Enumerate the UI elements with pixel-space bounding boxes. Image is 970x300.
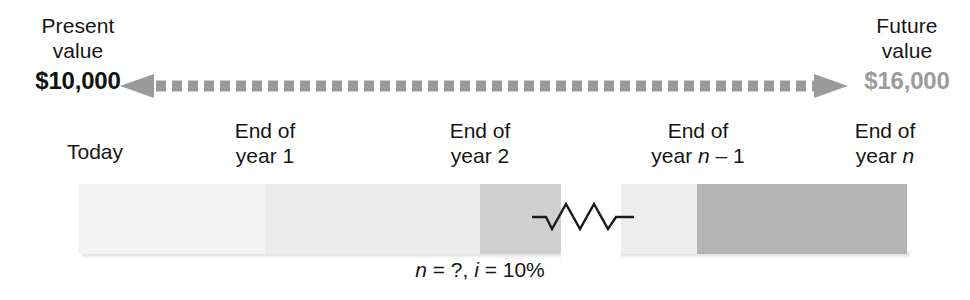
variable-n-italic: n [698, 144, 710, 167]
future-value-caption-line2: value [848, 39, 966, 64]
double-headed-dashed-arrow-icon [120, 68, 860, 104]
year-n-prefix: year [856, 144, 903, 167]
period-label-year-n-minus-1: End of year n – 1 [638, 119, 758, 169]
year-n-minus-1-prefix: year [651, 144, 698, 167]
bar-segment-1 [78, 184, 265, 254]
period-label-year-2: End of year 2 [430, 119, 530, 169]
present-value-caption-line1: Present [18, 14, 138, 39]
period-label-year-2-line2: year 2 [430, 144, 530, 169]
zigzag-break-icon [532, 196, 634, 238]
future-value-caption-line1: Future [848, 14, 966, 39]
formula-annotation: n = ?, i = 10% [330, 258, 630, 282]
period-label-today-line1: Today [67, 140, 123, 163]
period-label-year-1-line1: End of [235, 119, 296, 142]
period-label-today: Today [45, 140, 145, 165]
future-value-amount: $16,000 [848, 67, 966, 95]
year-n-minus-1-suffix: – 1 [710, 144, 745, 167]
formula-variable-n: n [415, 258, 427, 281]
period-label-year-2-line1: End of [450, 119, 511, 142]
period-label-year-n-line1: End of [855, 119, 916, 142]
present-value-caption-line2: value [18, 39, 138, 64]
formula-n-value: = ?, [427, 258, 474, 281]
diagram-canvas: Present value $10,000 Future value $16,0… [0, 0, 970, 300]
timeline-bar [78, 184, 907, 254]
period-label-year-1-line2: year 1 [215, 144, 315, 169]
variable-n-italic-last: n [903, 144, 915, 167]
period-label-year-1: End of year 1 [215, 119, 315, 169]
bar-segment-2 [265, 184, 480, 254]
future-value-block: Future value $16,000 [848, 14, 966, 95]
formula-i-value: = 10% [479, 258, 545, 281]
period-label-year-n-minus-1-line2: year n – 1 [638, 144, 758, 169]
period-label-year-n-minus-1-line1: End of [668, 119, 729, 142]
period-label-year-n-line2: year n [830, 144, 940, 169]
period-label-year-n: End of year n [830, 119, 940, 169]
bar-segment-5 [697, 184, 907, 254]
